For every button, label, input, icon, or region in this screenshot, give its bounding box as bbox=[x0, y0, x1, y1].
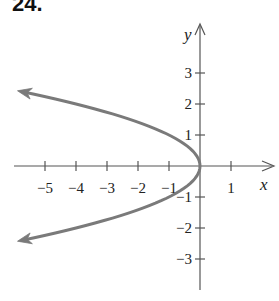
x-tick-label: −5 bbox=[37, 180, 53, 196]
y-tick-label: 2 bbox=[185, 96, 193, 112]
y-tick-label: −3 bbox=[176, 251, 192, 267]
y-tick-label: −2 bbox=[176, 220, 192, 236]
graph: xy−5−4−3−2−11321−1−2−3 bbox=[0, 0, 279, 301]
x-axis-label: x bbox=[259, 175, 268, 194]
y-tick-label: 1 bbox=[185, 127, 193, 143]
tick-labels: xy−5−4−3−2−11321−1−2−3 bbox=[37, 25, 268, 267]
x-tick-label: −3 bbox=[99, 180, 115, 196]
x-tick-label: −2 bbox=[130, 180, 146, 196]
x-tick-label: −4 bbox=[68, 180, 84, 196]
axes bbox=[14, 24, 274, 290]
y-axis-label: y bbox=[182, 25, 192, 44]
y-tick-label: 3 bbox=[185, 65, 193, 81]
x-tick-label: 1 bbox=[227, 180, 235, 196]
